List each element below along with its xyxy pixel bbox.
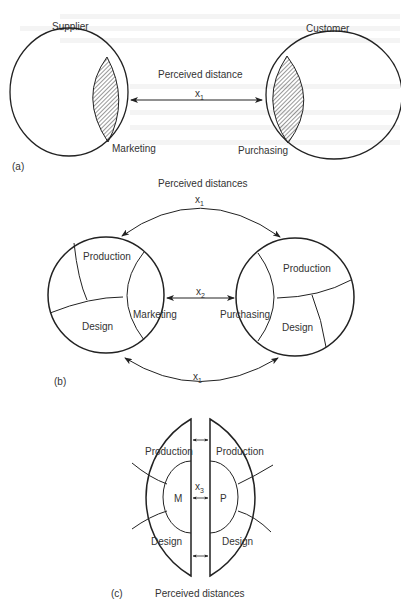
panel-a-label: (a) bbox=[12, 161, 24, 172]
panel-a: Supplier Marketing Customer Purchasing P… bbox=[10, 21, 401, 172]
design-label-right-c: Design bbox=[222, 536, 253, 547]
production-label-left-c: Production bbox=[145, 446, 193, 457]
panel-c: Production Design M Production Design P … bbox=[111, 419, 273, 599]
purchasing-label-b: Purchasing bbox=[220, 309, 270, 320]
x1-variable: x1 bbox=[195, 88, 204, 101]
marketing-core-label: M bbox=[174, 493, 182, 504]
design-boundary-right bbox=[312, 295, 326, 347]
production-label-right-c: Production bbox=[216, 446, 264, 457]
marketing-label-b: Marketing bbox=[133, 309, 177, 320]
panel-b-label: (b) bbox=[54, 376, 66, 387]
purchasing-label: Purchasing bbox=[238, 145, 288, 156]
production-label-right-b: Production bbox=[283, 263, 331, 274]
panel-c-label: (c) bbox=[111, 588, 123, 599]
x2-variable: x2 bbox=[196, 286, 205, 299]
marketing-boundary bbox=[127, 252, 144, 340]
x3-variable: x3 bbox=[195, 481, 204, 494]
customer-half-disc bbox=[210, 419, 255, 576]
panel-b: Perceived distances x1 Production Design… bbox=[48, 178, 354, 387]
diagram-canvas: Supplier Marketing Customer Purchasing P… bbox=[0, 0, 401, 613]
x1-bottom-variable: x1 bbox=[193, 371, 202, 384]
production-boundary-right bbox=[277, 280, 351, 298]
purchasing-boundary bbox=[258, 253, 274, 341]
design-label-right-b: Design bbox=[282, 322, 313, 333]
production-boundary-right-c bbox=[238, 465, 273, 484]
supplier-half-disc bbox=[146, 419, 191, 576]
marketing-hatched-region bbox=[93, 57, 119, 142]
perceived-distance-title: Perceived distance bbox=[158, 69, 243, 80]
design-label-left-c: Design bbox=[151, 536, 182, 547]
design-boundary-right-c bbox=[238, 511, 271, 532]
production-label-left-b: Production bbox=[83, 251, 131, 262]
top-arc-arrow-x1 bbox=[122, 208, 280, 237]
x1-top-variable: x1 bbox=[195, 194, 204, 207]
perceived-distances-title-b: Perceived distances bbox=[158, 178, 248, 189]
customer-label: Customer bbox=[306, 23, 350, 34]
perceived-distances-title-c: Perceived distances bbox=[155, 588, 245, 599]
design-label-left-b: Design bbox=[82, 321, 113, 332]
purchasing-core-label: P bbox=[220, 493, 227, 504]
marketing-label: Marketing bbox=[112, 143, 156, 154]
